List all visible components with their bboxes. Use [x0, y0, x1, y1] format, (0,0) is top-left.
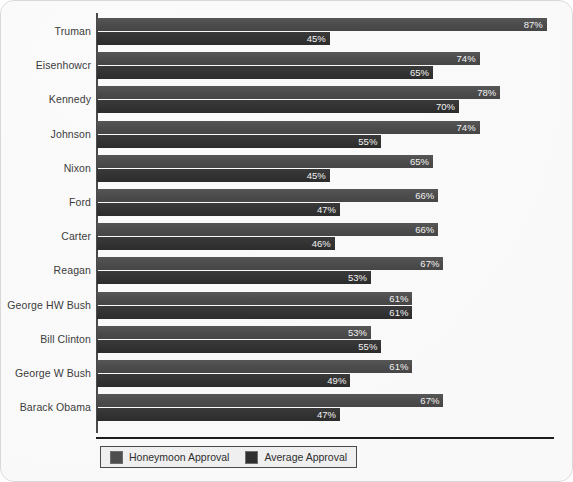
bar-value-label: 45% — [307, 169, 326, 182]
bar-average: 49% — [97, 374, 350, 387]
bar-group: Eisenhowcr74%65% — [1, 51, 573, 85]
bar-value-label: 66% — [415, 189, 434, 202]
bar-honeymoon: 66% — [97, 223, 438, 236]
category-label: Bill Clinton — [0, 333, 91, 345]
bar-average: 47% — [97, 203, 340, 216]
bar-honeymoon: 66% — [97, 189, 438, 202]
bar-average: 46% — [97, 237, 335, 250]
bar-value-label: 67% — [420, 394, 439, 407]
bar-value-label: 46% — [312, 237, 331, 250]
category-label: Ford — [0, 196, 91, 208]
category-label: Johnson — [0, 128, 91, 140]
bar-value-label: 53% — [348, 326, 367, 339]
bar-value-label: 74% — [457, 52, 476, 65]
category-label: Nixon — [0, 162, 91, 174]
bar-value-label: 78% — [477, 86, 496, 99]
bar-value-label: 55% — [358, 340, 377, 353]
x-axis-line — [96, 437, 554, 439]
legend-label: Average Approval — [264, 451, 347, 463]
bar-group: Kennedy78%70% — [1, 85, 573, 119]
bar-value-label: 53% — [348, 271, 367, 284]
bar-group: Barack Obama67%47% — [1, 393, 573, 427]
bar-group: Nixon65%45% — [1, 154, 573, 188]
bar-value-label: 70% — [436, 100, 455, 113]
category-label: Carter — [0, 230, 91, 242]
bar-honeymoon: 87% — [97, 18, 547, 31]
bar-honeymoon: 74% — [97, 52, 480, 65]
category-label: Kennedy — [0, 93, 91, 105]
category-label: Eisenhowcr — [0, 59, 91, 71]
bar-group: Truman87%45% — [1, 17, 573, 51]
bar-honeymoon: 61% — [97, 360, 412, 373]
bar-group: George HW Bush61%61% — [1, 291, 573, 325]
plot-area: Truman87%45%Eisenhowcr74%65%Kennedy78%70… — [1, 1, 573, 482]
bar-average: 55% — [97, 135, 381, 148]
chart-legend: Honeymoon ApprovalAverage Approval — [100, 446, 357, 468]
bar-group: Bill Clinton53%55% — [1, 325, 573, 359]
approval-ratings-bar-chart: Truman87%45%Eisenhowcr74%65%Kennedy78%70… — [0, 0, 573, 482]
legend-item[interactable]: Honeymoon Approval — [110, 451, 229, 464]
category-label: Reagan — [0, 264, 91, 276]
legend-swatch-icon — [110, 451, 123, 464]
bar-value-label: 65% — [410, 155, 429, 168]
category-label: Truman — [0, 25, 91, 37]
bar-value-label: 61% — [389, 306, 408, 319]
bar-honeymoon: 61% — [97, 292, 412, 305]
bar-value-label: 45% — [307, 32, 326, 45]
category-label: Barack Obama — [0, 401, 91, 413]
legend-item[interactable]: Average Approval — [245, 451, 347, 464]
category-label: George W Bush — [0, 367, 91, 379]
bar-group: George W Bush61%49% — [1, 359, 573, 393]
bar-value-label: 61% — [389, 292, 408, 305]
bar-honeymoon: 67% — [97, 257, 443, 270]
bar-value-label: 65% — [410, 66, 429, 79]
bar-honeymoon: 78% — [97, 86, 500, 99]
legend-label: Honeymoon Approval — [129, 451, 229, 463]
bar-average: 45% — [97, 32, 330, 45]
bar-average: 70% — [97, 100, 459, 113]
bar-value-label: 74% — [457, 121, 476, 134]
bar-group: Johnson74%55% — [1, 120, 573, 154]
bar-value-label: 47% — [317, 203, 336, 216]
bar-average: 45% — [97, 169, 330, 182]
bar-value-label: 87% — [524, 18, 543, 31]
bar-group: Carter66%46% — [1, 222, 573, 256]
bar-value-label: 47% — [317, 408, 336, 421]
bar-average: 55% — [97, 340, 381, 353]
bar-average: 65% — [97, 66, 433, 79]
bar-value-label: 61% — [389, 360, 408, 373]
bar-group: Ford66%47% — [1, 188, 573, 222]
bar-average: 61% — [97, 306, 412, 319]
bar-value-label: 55% — [358, 135, 377, 148]
bar-average: 47% — [97, 408, 340, 421]
legend-swatch-icon — [245, 451, 258, 464]
bar-group: Reagan67%53% — [1, 256, 573, 290]
bar-value-label: 49% — [327, 374, 346, 387]
bar-value-label: 67% — [420, 257, 439, 270]
bar-value-label: 66% — [415, 223, 434, 236]
bar-average: 53% — [97, 271, 371, 284]
bar-honeymoon: 67% — [97, 394, 443, 407]
category-label: George HW Bush — [0, 299, 91, 311]
bar-honeymoon: 53% — [97, 326, 371, 339]
bar-honeymoon: 74% — [97, 121, 480, 134]
bar-honeymoon: 65% — [97, 155, 433, 168]
